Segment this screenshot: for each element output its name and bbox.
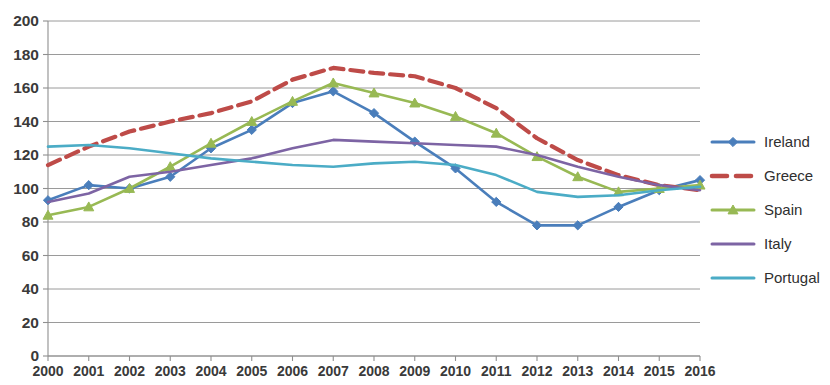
- y-tick-labels: 020406080100120140160180200: [13, 12, 39, 364]
- legend-item-portugal[interactable]: Portugal: [712, 269, 820, 286]
- x-tick-label: 2004: [195, 363, 226, 379]
- y-tick-label: 0: [30, 347, 39, 364]
- series-line-portugal: [48, 145, 700, 197]
- x-tick-label: 2003: [155, 363, 186, 379]
- legend-item-italy[interactable]: Italy: [712, 235, 792, 252]
- y-tick-label: 120: [13, 146, 39, 163]
- series-ireland: [43, 87, 704, 230]
- x-tick-label: 2008: [358, 363, 389, 379]
- x-tick-label: 2016: [684, 363, 715, 379]
- x-tick-label: 2014: [603, 363, 634, 379]
- data-point-spain-2007: [328, 78, 338, 87]
- chart-canvas: 020406080100120140160180200 200020012002…: [0, 0, 830, 385]
- legend-label-ireland: Ireland: [764, 133, 810, 150]
- data-point-ireland-2014: [614, 202, 623, 211]
- legend-item-ireland[interactable]: Ireland: [712, 133, 810, 150]
- x-tick-label: 2009: [399, 363, 430, 379]
- x-tick-label: 2002: [114, 363, 145, 379]
- y-tick-label: 20: [22, 314, 39, 331]
- y-tick-label: 80: [22, 213, 39, 230]
- x-tick-label: 2006: [277, 363, 308, 379]
- x-tick-label: 2013: [562, 363, 593, 379]
- x-tick-label: 2005: [236, 363, 267, 379]
- y-tick-label: 140: [13, 113, 39, 130]
- legend-label-greece: Greece: [764, 167, 813, 184]
- legend-item-spain[interactable]: Spain: [712, 201, 802, 218]
- x-tick-label: 2001: [73, 363, 104, 379]
- x-tick-label: 2011: [481, 363, 512, 379]
- x-tick-label: 2010: [440, 363, 471, 379]
- y-tick-label: 200: [13, 12, 39, 29]
- legend-label-portugal: Portugal: [764, 269, 820, 286]
- y-tick-label: 60: [22, 247, 39, 264]
- legend-marker-ireland: [728, 137, 737, 146]
- y-tick-label: 100: [13, 180, 39, 197]
- y-tick-label: 160: [13, 79, 39, 96]
- data-series-group: [43, 68, 705, 230]
- legend-label-italy: Italy: [764, 235, 792, 252]
- y-tick-label: 40: [22, 280, 39, 297]
- x-tick-label: 2007: [318, 363, 349, 379]
- x-tick-labels: 2000200120022003200420052006200720082009…: [32, 363, 715, 379]
- legend-item-greece[interactable]: Greece: [712, 167, 813, 184]
- y-tick-label: 180: [13, 46, 39, 63]
- x-axis: [48, 356, 700, 361]
- y-axis: [43, 21, 48, 356]
- line-chart: 020406080100120140160180200 200020012002…: [0, 0, 830, 385]
- x-tick-label: 2000: [32, 363, 63, 379]
- chart-legend: IrelandGreeceSpainItalyPortugal: [712, 133, 820, 286]
- legend-label-spain: Spain: [764, 201, 802, 218]
- series-portugal: [48, 145, 700, 197]
- x-tick-label: 2015: [644, 363, 675, 379]
- x-tick-label: 2012: [521, 363, 552, 379]
